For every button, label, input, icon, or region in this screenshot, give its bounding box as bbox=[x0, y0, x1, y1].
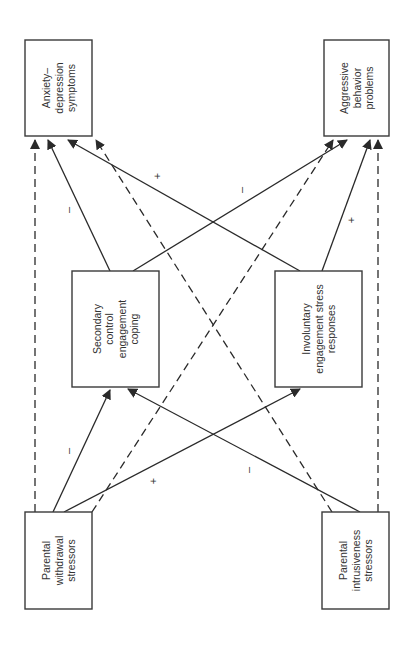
edge-sign-secondary-to-aggressive: – bbox=[235, 186, 247, 193]
node-label-line: Parental bbox=[40, 541, 52, 580]
node-label-line: Aggressive bbox=[338, 62, 350, 114]
node-secondary: Secondarycontrolengagementcoping bbox=[72, 271, 159, 387]
edge-involuntary-to-anxiety bbox=[68, 140, 300, 271]
edge-sign-intrusiveness-to-secondary: – bbox=[242, 466, 254, 473]
edge-withdrawal-to-involuntary bbox=[64, 389, 300, 512]
edge-sign-involuntary-to-aggressive: + bbox=[345, 217, 357, 223]
node-label-line: behavior bbox=[351, 67, 363, 108]
node-label-line: depression bbox=[53, 62, 65, 114]
edge-sign-involuntary-to-anxiety: + bbox=[151, 173, 163, 179]
node-label-line: Parental bbox=[337, 541, 349, 580]
node-anxiety: Anxiety–depressionsymptoms bbox=[25, 40, 92, 136]
node-label-line: problems bbox=[363, 66, 375, 109]
edge-sign-secondary-to-anxiety: – bbox=[62, 206, 74, 213]
edge-sign-withdrawal-to-involuntary: + bbox=[147, 478, 159, 484]
node-label-anxiety: Anxiety–depressionsymptoms bbox=[40, 62, 77, 114]
node-aggressive: Aggressivebehaviorproblems bbox=[324, 40, 389, 136]
node-label-line: engagement bbox=[116, 300, 128, 358]
edge-sign-withdrawal-to-secondary: – bbox=[62, 447, 74, 454]
node-label-line: Anxiety– bbox=[40, 68, 52, 108]
node-intrusiveness: Parentalintrusivenessstressors bbox=[322, 512, 389, 609]
node-label-line: Secondary bbox=[91, 303, 103, 354]
node-withdrawal: Parentalwithdrawalstressors bbox=[25, 512, 92, 609]
node-involuntary: Involuntaryengagement stressresponses bbox=[275, 271, 362, 387]
edge-involuntary-to-aggressive bbox=[322, 140, 370, 271]
edge-intrusiveness-to-secondary bbox=[128, 389, 360, 512]
node-label-line: Involuntary bbox=[300, 303, 312, 355]
node-label-line: stressors bbox=[65, 539, 77, 582]
node-label-line: intrusiveness bbox=[350, 530, 362, 591]
node-label-line: coping bbox=[128, 313, 140, 344]
nodes-layer: Anxiety–depressionsymptomsAggressivebeha… bbox=[25, 40, 389, 609]
node-label-line: responses bbox=[325, 305, 337, 353]
node-label-aggressive: Aggressivebehaviorproblems bbox=[338, 62, 375, 114]
node-label-withdrawal: Parentalwithdrawalstressors bbox=[40, 536, 77, 587]
node-label-line: control bbox=[103, 313, 115, 345]
node-label-line: engagement stress bbox=[313, 284, 325, 373]
edge-secondary-to-aggressive bbox=[133, 140, 347, 271]
node-label-line: stressors bbox=[362, 539, 374, 582]
edge-secondary-to-anxiety bbox=[48, 140, 110, 271]
node-label-line: symptoms bbox=[65, 64, 77, 112]
path-diagram: –+––++– Anxiety–depressionsymptomsAggres… bbox=[0, 0, 416, 648]
node-label-line: withdrawal bbox=[53, 536, 65, 587]
